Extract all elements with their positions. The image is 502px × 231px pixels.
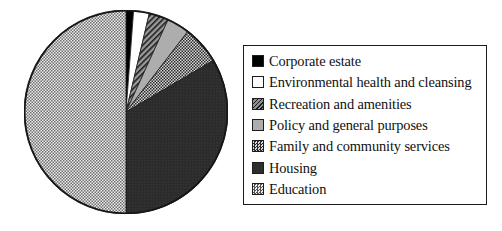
swatch-family-and-community-services [252,140,264,152]
legend-label: Family and community services [269,136,450,156]
legend-item-education[interactable]: Education [252,179,480,199]
legend-item-environmental-health-and-cleansing[interactable]: Environmental health and cleansing [252,72,480,92]
swatch-environmental-health-and-cleansing [252,76,264,88]
swatch-recreation-and-amenities [252,98,264,110]
swatch-housing [252,162,264,174]
legend-item-family-and-community-services[interactable]: Family and community services [252,136,480,156]
legend-label: Policy and general purposes [269,115,428,135]
pie-chart-svg [24,10,228,214]
legend-label: Corporate estate [269,51,361,71]
pie-chart [24,10,228,214]
legend-label: Education [269,179,326,199]
legend-item-housing[interactable]: Housing [252,158,480,178]
legend-list: Corporate estate Environmental health an… [252,51,480,199]
legend-item-recreation-and-amenities[interactable]: Recreation and amenities [252,94,480,114]
legend-label: Recreation and amenities [269,94,412,114]
swatch-policy-and-general-purposes [252,119,264,131]
legend: Corporate estate Environmental health an… [243,45,487,205]
legend-item-corporate-estate[interactable]: Corporate estate [252,51,480,71]
pie-chart-figure: Corporate estate Environmental health an… [0,0,502,231]
swatch-education [252,183,264,195]
pie-slice-education[interactable] [24,10,126,214]
legend-label: Environmental health and cleansing [269,72,472,92]
swatch-corporate-estate [252,55,264,67]
legend-item-policy-and-general-purposes[interactable]: Policy and general purposes [252,115,480,135]
legend-label: Housing [269,158,317,178]
